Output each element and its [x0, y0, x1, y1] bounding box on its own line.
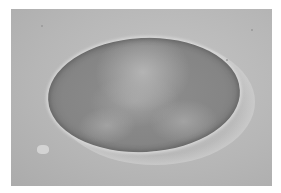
- debris-particle: [37, 145, 49, 154]
- speck: [226, 59, 228, 61]
- micrograph-photo: [11, 9, 272, 186]
- speck: [41, 25, 43, 27]
- speck: [251, 29, 253, 31]
